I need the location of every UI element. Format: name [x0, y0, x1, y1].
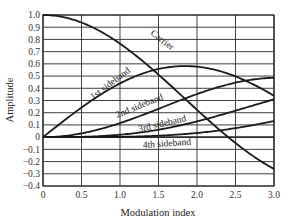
y-tick-label: 0.1: [28, 120, 40, 130]
y-tick-label: 0.8: [28, 35, 40, 45]
y-tick-label: 1.0: [28, 10, 40, 20]
y-tick-label: 0.4: [28, 84, 40, 94]
y-tick-label: 0.9: [28, 23, 40, 33]
x-axis-ticks: 00.51.01.52.02.53.0: [41, 190, 281, 200]
y-tick-label: −0.4: [23, 181, 40, 191]
third-sideband-label: 3rd sideband: [137, 113, 187, 134]
x-tick-label: 2.0: [191, 190, 203, 200]
y-tick-label: 0.5: [28, 71, 40, 81]
x-tick-label: 0: [41, 190, 46, 200]
y-tick-label: 0.6: [28, 59, 40, 69]
x-tick-label: 2.5: [230, 190, 242, 200]
x-tick-label: 1.0: [114, 190, 126, 200]
y-tick-label: 0: [35, 132, 40, 142]
y-tick-label: −0.3: [23, 169, 40, 179]
y-axis-ticks: 1.00.90.80.70.60.50.40.30.20.10−0.1−0.2−…: [23, 10, 40, 191]
x-tick-label: 3.0: [268, 190, 280, 200]
y-tick-label: −0.1: [23, 145, 40, 155]
carrier-label: Carrier: [149, 28, 177, 53]
x-axis-label: Modulation index: [121, 207, 197, 218]
first-sideband-label: 1st sideband: [88, 65, 132, 102]
x-tick-label: 0.5: [76, 190, 88, 200]
y-tick-label: −0.2: [23, 157, 40, 167]
x-tick-label: 1.5: [153, 190, 165, 200]
bessel-amplitude-chart: 1.00.90.80.70.60.50.40.30.20.10−0.1−0.2−…: [0, 0, 293, 224]
y-axis-label: Amplitude: [4, 77, 15, 122]
y-tick-label: 0.3: [28, 96, 40, 106]
fourth-sideband-label: 4th sideband: [142, 137, 191, 150]
y-tick-label: 0.7: [28, 47, 40, 57]
y-tick-label: 0.2: [28, 108, 40, 118]
